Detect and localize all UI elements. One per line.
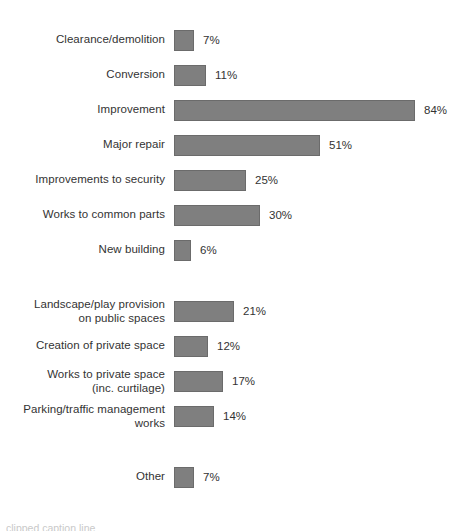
bar-row: Major repair51%	[0, 135, 472, 156]
bar-row: Improvement84%	[0, 100, 472, 121]
bar-value-label: 25%	[255, 173, 278, 187]
bar-category-label: Works to common parts	[0, 208, 165, 222]
bar-track	[174, 406, 214, 427]
bar-row: Clearance/demolition7%	[0, 30, 472, 51]
bar-fill	[174, 170, 246, 191]
bar-value-label: 51%	[329, 138, 352, 152]
bar-value-label: 14%	[223, 409, 246, 423]
bar-fill	[174, 30, 194, 51]
bar-value-label: 21%	[243, 304, 266, 318]
bar-category-label: Landscape/play provision on public space…	[0, 298, 165, 325]
bar-value-label: 11%	[215, 68, 237, 82]
bar-row: Parking/traffic management works14%	[0, 406, 472, 427]
bar-value-label: 12%	[217, 339, 240, 353]
bar-track	[174, 205, 260, 226]
clipped-bottom-caption: clipped caption line	[6, 522, 472, 531]
bar-value-label: 6%	[200, 243, 217, 257]
bar-track	[174, 135, 320, 156]
bar-category-label: Conversion	[0, 68, 165, 82]
bar-track	[174, 301, 234, 322]
bar-category-label: New building	[0, 243, 165, 257]
bar-row: New building6%	[0, 240, 472, 261]
bar-track	[174, 336, 208, 357]
bar-category-label: Other	[0, 470, 165, 484]
bar-track	[174, 30, 194, 51]
bar-fill	[174, 406, 214, 427]
bar-value-label: 30%	[269, 208, 292, 222]
bar-category-label: Works to private space (inc. curtilage)	[0, 368, 165, 395]
bar-track	[174, 467, 194, 488]
bar-fill	[174, 336, 208, 357]
bar-fill	[174, 467, 194, 488]
bar-value-label: 84%	[424, 103, 447, 117]
bar-row: Landscape/play provision on public space…	[0, 301, 472, 322]
bar-value-label: 17%	[232, 374, 255, 388]
bar-category-label: Creation of private space	[0, 339, 165, 353]
bar-row: Improvements to security25%	[0, 170, 472, 191]
bar-row: Conversion11%	[0, 65, 472, 86]
bar-row: Creation of private space12%	[0, 336, 472, 357]
bar-row: Other7%	[0, 467, 472, 488]
bar-value-label: 7%	[203, 470, 220, 484]
bar-category-label: Major repair	[0, 138, 165, 152]
bar-fill	[174, 205, 260, 226]
bar-track	[174, 65, 206, 86]
bar-category-label: Improvement	[0, 103, 165, 117]
bar-track	[174, 170, 246, 191]
bar-fill	[174, 100, 415, 121]
bar-category-label: Parking/traffic management works	[0, 403, 165, 430]
bar-row: Works to common parts30%	[0, 205, 472, 226]
bar-track	[174, 240, 191, 261]
bar-track	[174, 371, 223, 392]
bar-value-label: 7%	[203, 33, 220, 47]
bar-fill	[174, 301, 234, 322]
bar-fill	[174, 240, 191, 261]
bar-category-label: Improvements to security	[0, 173, 165, 187]
bar-track	[174, 100, 415, 121]
bar-row: Works to private space (inc. curtilage)1…	[0, 371, 472, 392]
bar-category-label: Clearance/demolition	[0, 33, 165, 47]
bar-fill	[174, 65, 206, 86]
bar-fill	[174, 135, 320, 156]
bar-fill	[174, 371, 223, 392]
bar-chart: Clearance/demolition7%Conversion11%Impro…	[0, 0, 472, 531]
